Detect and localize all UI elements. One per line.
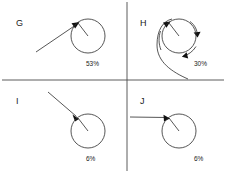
panel-letter-G: G bbox=[16, 18, 23, 28]
axis-group bbox=[2, 2, 224, 171]
radius-line-I bbox=[78, 118, 88, 131]
panel-J: J 6% bbox=[130, 96, 204, 162]
spiral-arrow-head-H bbox=[194, 32, 201, 38]
percent-label-G: 53% bbox=[86, 60, 99, 67]
radius-line-G bbox=[78, 23, 88, 36]
quadrant-diagram-root: G 53% H 30% I bbox=[0, 0, 226, 173]
radius-line-J bbox=[169, 118, 179, 131]
trajectory-path-J bbox=[130, 117, 167, 118]
percent-label-J: 6% bbox=[194, 155, 204, 162]
panel-G: G 53% bbox=[16, 18, 105, 67]
percent-label-I: 6% bbox=[86, 155, 96, 162]
spiral-arrow-head2-H bbox=[182, 52, 188, 58]
spiral-arc-left-H bbox=[159, 31, 161, 50]
panel-letter-J: J bbox=[140, 96, 145, 106]
percent-label-H: 30% bbox=[194, 60, 207, 67]
radius-line-H bbox=[169, 23, 179, 36]
panel-letter-I: I bbox=[16, 96, 19, 106]
panel-letter-H: H bbox=[140, 18, 147, 28]
trajectory-path-G bbox=[36, 25, 77, 53]
diagram-canvas: G 53% H 30% I bbox=[0, 0, 226, 173]
panel-I: I 6% bbox=[16, 92, 105, 162]
trajectory-path-I bbox=[48, 92, 77, 117]
panel-H: H 30% bbox=[140, 18, 207, 79]
